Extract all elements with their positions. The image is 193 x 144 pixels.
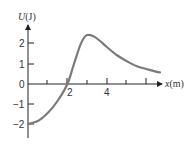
x-tick-label-4: 4	[104, 87, 110, 98]
y-tick-label-1: 1	[19, 59, 25, 70]
y-tick-label-m2: −2	[13, 119, 25, 130]
y-axis-title: U(J)	[18, 11, 36, 23]
y-tick-label-0: 0	[19, 79, 25, 90]
potential-energy-chart: U(J) x(m) 2 1 0 −1 −2 2 4	[0, 0, 193, 144]
x-ticks	[47, 78, 146, 84]
y-tick-label-m1: −1	[13, 99, 25, 110]
potential-energy-curve	[28, 35, 160, 124]
y-tick-label-2: 2	[19, 38, 25, 49]
x-tick-label-2: 2	[67, 87, 73, 98]
x-axis-title: x(m)	[164, 78, 184, 90]
